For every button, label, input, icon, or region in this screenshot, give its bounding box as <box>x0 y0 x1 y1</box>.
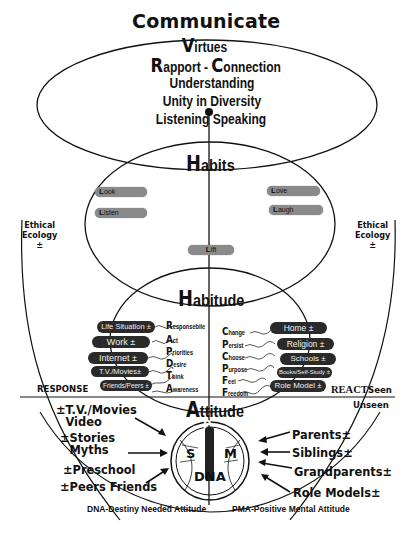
attitude-letter-m: M <box>224 446 237 461</box>
habitude-heading: Habitude <box>178 287 244 311</box>
influence-preschool: ±Preschool <box>63 463 135 477</box>
acronym-awareness: Awareness <box>166 382 198 395</box>
influence-pill-life-situation: Life Situation ± <box>97 321 155 333</box>
influence-role-models: Role Models± <box>293 486 381 500</box>
attitude-heading: Attitude <box>186 398 244 422</box>
influence-peers-friends: ±Peers Friends <box>60 480 157 494</box>
acronym-think: Think <box>166 369 184 382</box>
influence-pill-tv-movies: T.V./Movies± <box>91 366 149 377</box>
influence-pill-schools: Schools ± <box>280 353 336 365</box>
rapport-connection-heading: Rapport - Connection <box>151 54 281 76</box>
communicate-title: Communicate <box>132 10 280 32</box>
virtue-understanding: Understanding <box>167 75 256 91</box>
habit-pill-laugh: Laugh <box>269 205 323 215</box>
habit-pill-love: Love <box>267 186 320 196</box>
footer-pma-definition: PMA-Positive Mental Attitude <box>232 504 350 514</box>
influence-stories-myths: ±Stories Myths <box>60 432 115 456</box>
influence-tv-movies-video: ±T.V./Movies Video <box>56 404 137 428</box>
acronym-responsible: Responsebile <box>166 319 205 332</box>
habits-heading: Habits <box>186 152 235 176</box>
virtues-heading: Virtues <box>182 34 227 56</box>
influence-pill-friends-peers: Friends/Peers ± <box>100 380 152 391</box>
attitude-letter-p: P <box>203 418 211 431</box>
habit-pill-look: Look <box>95 187 147 197</box>
habit-pill-lift: Lift <box>188 245 234 255</box>
footer-dna-definition: DNA-Destiny Needed Attitude <box>87 504 206 514</box>
influence-pill-books-self-study: Books/Self-Study ± <box>277 367 332 378</box>
ethical-ecology-left: Ethical Ecology ± <box>22 220 57 250</box>
influence-pill-role-model: Role Model ± <box>270 380 326 392</box>
acronym-change: Change <box>222 325 245 338</box>
influence-pill-religion: Religion ± <box>277 338 334 350</box>
response-label: RESPONSE <box>37 383 88 394</box>
attitude-letters-dna: DNA <box>194 469 226 484</box>
virtue-unity-in-diversity: Unity in Diversity <box>160 93 263 109</box>
habit-pill-listen: Listen <box>95 208 147 218</box>
seen-label: Seen <box>368 384 392 395</box>
influence-pill-home: Home ± <box>270 322 327 334</box>
influence-parents: Parents± <box>292 428 351 442</box>
attitude-letter-s: S <box>186 446 195 461</box>
influence-grandparents: Grandparents± <box>294 465 392 479</box>
influence-siblings: Siblings± <box>292 446 353 460</box>
react-label: REACT <box>331 384 368 395</box>
influence-pill-internet: Internet ± <box>88 352 148 364</box>
unseen-label: Unseen <box>353 399 389 410</box>
virtue-listening-speaking: Listening Speaking <box>155 111 267 127</box>
ethical-ecology-right: Ethical Ecology ± <box>355 220 390 250</box>
influence-pill-work: Work ± <box>92 336 150 348</box>
